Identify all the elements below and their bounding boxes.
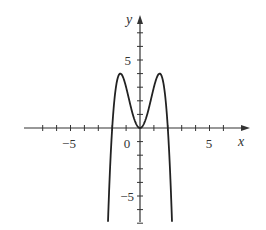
y-tick-label-neg5: −5 <box>120 189 134 204</box>
origin-label: 0 <box>124 136 131 151</box>
x-axis-arrow-icon <box>241 125 250 131</box>
x-axis-label: x <box>237 134 245 149</box>
function-graph: y x −5 5 0 5 −5 <box>0 0 266 230</box>
x-tick-label-neg5: −5 <box>62 136 76 151</box>
y-axis-arrow-icon <box>137 15 143 24</box>
x-tick-label-5: 5 <box>206 136 213 151</box>
y-tick-label-5: 5 <box>125 53 132 68</box>
y-axis-label: y <box>124 12 133 27</box>
